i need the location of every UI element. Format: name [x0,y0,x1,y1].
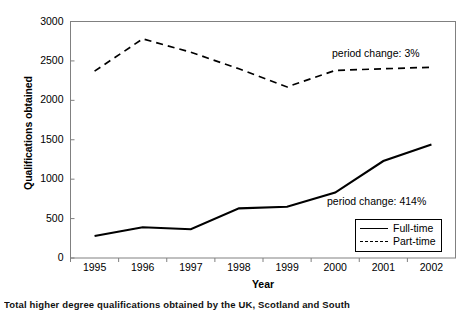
y-axis-tick-label: 2000 [20,94,64,105]
legend-label-full-time: Full-time [393,223,433,234]
figure: Qualifications obtained Year 05001000150… [0,0,472,311]
y-axis-tick-label: 2500 [20,55,64,66]
chart-plot-area: Qualifications obtained Year 05001000150… [0,0,472,292]
chart-legend: Full-time Part-time [355,219,442,252]
annotation-part-time-period-change: period change: 3% [332,47,420,59]
annotation-full-time-period-change: period change: 414% [327,195,426,207]
y-axis-tick-label: 1000 [20,173,64,184]
figure-caption: Total higher degree qualifications obtai… [4,299,470,311]
y-axis-tick-label: 0 [20,252,64,263]
legend-label-part-time: Part-time [393,236,436,247]
y-axis-tick-label: 500 [20,213,64,224]
x-axis-tick-label: 2002 [403,262,459,273]
legend-item-full-time: Full-time [360,222,436,235]
y-axis-tick-label: 3000 [20,16,64,27]
y-axis-tick-label: 1500 [20,134,64,145]
legend-swatch-dashed-icon [360,237,388,246]
x-axis-title: Year [70,278,456,290]
legend-swatch-solid-icon [360,224,388,233]
legend-item-part-time: Part-time [360,235,436,248]
